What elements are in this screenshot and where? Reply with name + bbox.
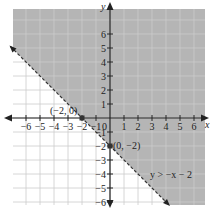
y-tick-label: −6 bbox=[95, 197, 106, 208]
point-marker bbox=[108, 144, 113, 149]
x-tick-label: 4 bbox=[164, 121, 169, 132]
point-label: (0, −2) bbox=[113, 140, 140, 152]
y-axis-label: y bbox=[100, 1, 106, 12]
inequality-label: y > −x − 2 bbox=[150, 169, 192, 180]
x-tick-label: −6 bbox=[21, 121, 32, 132]
x-tick-label: −5 bbox=[35, 121, 46, 132]
y-axis-down-arrow-icon bbox=[107, 200, 114, 208]
y-tick-label: 6 bbox=[101, 29, 106, 40]
x-tick-label: 5 bbox=[178, 121, 183, 132]
point-marker bbox=[80, 116, 85, 121]
y-tick-label: −5 bbox=[95, 183, 106, 194]
y-tick-label: −4 bbox=[95, 169, 106, 180]
point-label: (−2, 0) bbox=[50, 105, 77, 117]
x-tick-label: 3 bbox=[150, 121, 155, 132]
inequality-graph: −6−5−4−3−2−1123456−6−5−4−3−2−1123456xy (… bbox=[0, 0, 213, 209]
x-tick-label: 2 bbox=[136, 121, 141, 132]
y-tick-label: 3 bbox=[101, 71, 106, 82]
x-axis-left-arrow-icon bbox=[4, 115, 12, 122]
y-tick-label: 2 bbox=[101, 85, 106, 96]
x-tick-label: 1 bbox=[122, 121, 127, 132]
origin-label: 0 bbox=[102, 121, 107, 132]
x-axis-label: x bbox=[204, 119, 210, 130]
y-axis-up-arrow-icon bbox=[107, 2, 114, 10]
y-tick-label: 4 bbox=[101, 57, 106, 68]
x-tick-label: −3 bbox=[63, 121, 74, 132]
x-tick-label: 6 bbox=[192, 121, 197, 132]
y-tick-label: 5 bbox=[101, 43, 106, 54]
x-tick-label: −2 bbox=[77, 121, 88, 132]
y-tick-label: −2 bbox=[95, 141, 106, 152]
y-tick-label: 1 bbox=[101, 99, 106, 110]
x-tick-label: −4 bbox=[49, 121, 60, 132]
y-tick-label: −3 bbox=[95, 155, 106, 166]
